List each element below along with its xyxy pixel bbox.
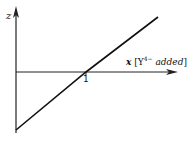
x-axis-label: x [Y4− added] [126,56,187,67]
x-axis-bracket-close: ] [183,57,187,67]
x-axis-var: x [126,57,131,67]
chart-canvas [0,0,191,146]
y-axis-label: z [6,11,11,21]
x-tick-label-1: 1 [83,75,89,84]
x-axis-text: added [153,57,184,67]
ion-charge: 4− [144,55,153,62]
x-axis-ion: Y4− [138,57,153,67]
